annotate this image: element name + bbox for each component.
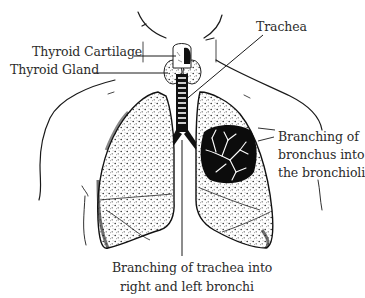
label-thyroid-cartilage: Thyroid Cartilage — [32, 44, 142, 60]
label-thyroid-gland: Thyroid Gland — [10, 62, 99, 78]
label-trachea-branching: Branching of trachea into right and left… — [112, 258, 262, 296]
label-trachea: Trachea — [256, 19, 307, 35]
label-bronchi-line1: Branching of trachea into — [112, 258, 262, 277]
label-bronchi-line2: right and left bronchi — [112, 277, 262, 296]
right-lung — [98, 92, 174, 248]
respiratory-diagram: Thyroid Cartilage Thyroid Gland Trachea … — [0, 0, 365, 298]
label-bronchus-line1: Branching of — [278, 128, 365, 146]
leader-bronchus-1 — [258, 128, 275, 130]
leader-bronchus-2 — [258, 137, 274, 141]
label-bronchus-line3: the bronchioli — [278, 164, 365, 182]
label-bronchus-line2: bronchus into — [278, 146, 365, 164]
label-bronchus-branching: Branching of bronchus into the bronchiol… — [278, 128, 365, 182]
bronchioli — [201, 125, 257, 183]
